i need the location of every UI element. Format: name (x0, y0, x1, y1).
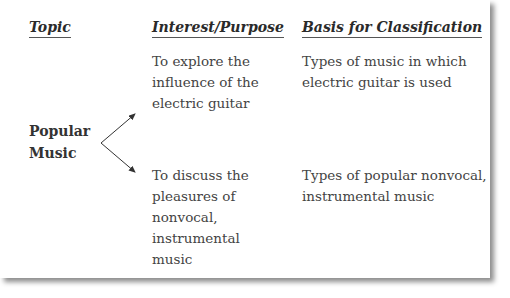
text-line: Types of popular nonvocal, (302, 165, 487, 186)
basis-2: Types of popular nonvocal, instrumental … (302, 165, 487, 207)
text-line: electric guitar (152, 93, 259, 114)
text-line: influence of the (152, 72, 259, 93)
classification-card: Topic Interest/Purpose Basis for Classif… (0, 0, 490, 278)
arrow-up-icon (101, 114, 135, 143)
text-line: pleasures of (152, 186, 249, 207)
purpose-1: To explore the influence of the electric… (152, 51, 259, 114)
text-line: instrumental (152, 228, 249, 249)
text-line: instrumental music (302, 186, 487, 207)
text-line: music (152, 249, 249, 270)
text-line: To discuss the (152, 165, 249, 186)
text-line: To explore the (152, 51, 259, 72)
arrow-down-icon (101, 143, 135, 172)
purpose-2: To discuss the pleasures of nonvocal, in… (152, 165, 249, 270)
basis-1: Types of music in which electric guitar … (302, 51, 467, 93)
text-line: electric guitar is used (302, 72, 467, 93)
text-line: Types of music in which (302, 51, 467, 72)
text-line: nonvocal, (152, 207, 249, 228)
